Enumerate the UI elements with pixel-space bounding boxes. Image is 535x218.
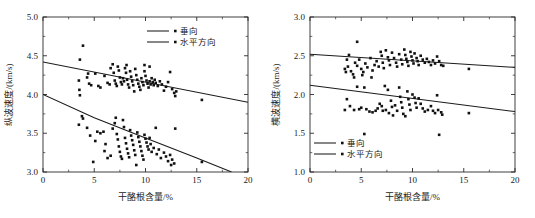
data-point — [432, 109, 435, 112]
data-point — [430, 105, 433, 108]
data-point — [361, 74, 364, 77]
data-point — [126, 147, 129, 150]
data-point — [144, 75, 147, 78]
data-point — [87, 72, 90, 75]
data-point — [442, 65, 445, 68]
data-point — [152, 84, 155, 87]
legend[interactable]: 垂向水平方向 — [314, 138, 383, 159]
data-point — [157, 85, 160, 88]
data-point — [122, 77, 125, 80]
data-point — [140, 77, 143, 80]
data-point — [381, 61, 384, 64]
figure-container: 051015203.03.54.04.55.0干酪根含量/%纵波速度/(km/s… — [0, 0, 535, 218]
x-tick-label: 20 — [511, 175, 521, 185]
data-point — [92, 161, 95, 164]
data-point — [401, 106, 404, 109]
data-point — [135, 74, 138, 77]
data-point — [347, 65, 350, 68]
data-point — [419, 54, 422, 57]
data-point — [148, 65, 151, 68]
data-point — [385, 109, 388, 112]
data-point — [104, 143, 107, 146]
data-point — [406, 61, 409, 64]
data-point — [167, 160, 170, 163]
data-point — [109, 67, 112, 70]
data-point — [82, 117, 85, 120]
data-point — [103, 150, 106, 153]
series-horizontal — [78, 115, 204, 166]
data-point — [436, 55, 439, 58]
data-point — [113, 79, 116, 82]
data-point — [146, 145, 149, 148]
data-point — [111, 127, 114, 130]
x-tick-label: 0 — [41, 175, 46, 185]
data-point — [424, 61, 427, 64]
data-point — [421, 107, 424, 110]
data-point — [119, 151, 122, 154]
data-point — [416, 60, 419, 63]
data-point — [138, 140, 141, 143]
data-point — [163, 89, 166, 92]
tick-labels: 051015201.01.52.02.53.0 — [294, 12, 520, 185]
data-point — [403, 48, 406, 51]
data-point — [111, 63, 114, 66]
data-point — [378, 103, 381, 106]
legend-label: 垂向 — [180, 26, 198, 36]
data-point — [349, 105, 352, 108]
data-point — [128, 156, 131, 159]
data-point — [171, 88, 174, 91]
data-point — [140, 150, 143, 153]
data-point — [113, 122, 116, 125]
legend-marker-swatch — [341, 142, 344, 145]
data-point — [400, 58, 403, 61]
data-point — [143, 134, 146, 137]
data-point — [120, 155, 123, 158]
data-point — [124, 137, 127, 140]
x-tick-label: 5 — [92, 175, 97, 185]
data-point — [413, 96, 416, 99]
fit-line-horizontal — [310, 85, 515, 111]
x-axis-title: 干酪根含量/% — [385, 191, 441, 202]
fit-line-vertical — [43, 62, 248, 102]
data-point — [354, 61, 357, 64]
data-point — [131, 139, 134, 142]
data-point — [387, 89, 390, 92]
data-point — [381, 109, 384, 112]
data-point — [375, 60, 378, 63]
data-point — [160, 157, 163, 160]
y-axis-title: 纵波速度/(km/s) — [3, 63, 14, 125]
data-point — [82, 44, 85, 47]
data-point — [149, 143, 152, 146]
data-point — [149, 83, 152, 86]
data-point — [131, 80, 134, 83]
data-point — [360, 106, 363, 109]
data-point — [119, 76, 122, 79]
data-point — [133, 149, 136, 152]
data-point — [94, 140, 97, 143]
data-point — [391, 106, 394, 109]
data-point — [130, 134, 133, 137]
data-point — [363, 133, 366, 136]
data-point — [438, 134, 441, 137]
data-point — [424, 110, 427, 113]
data-point — [114, 82, 117, 85]
y-tick-label: 3.0 — [294, 12, 306, 22]
data-point — [350, 70, 353, 73]
data-point — [413, 52, 416, 55]
data-point — [86, 127, 89, 130]
x-tick-label: 20 — [244, 175, 254, 185]
x-tick-label: 5 — [359, 175, 364, 185]
x-tick-label: 15 — [459, 175, 469, 185]
data-point — [436, 94, 439, 97]
data-point — [99, 86, 102, 89]
plot-frame — [43, 17, 248, 172]
data-point — [362, 71, 365, 74]
data-point — [141, 81, 144, 84]
scatter-points — [78, 44, 204, 166]
data-point — [102, 130, 105, 133]
legend[interactable]: 垂向水平方向 — [147, 26, 216, 47]
data-point — [90, 84, 93, 87]
data-point — [356, 41, 359, 44]
data-point — [373, 64, 376, 67]
plot-svg-left: 051015203.03.54.04.55.0干酪根含量/%纵波速度/(km/s… — [0, 0, 267, 218]
